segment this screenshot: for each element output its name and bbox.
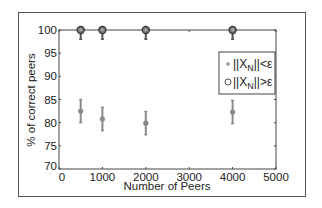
data-point-below-epsilon: [143, 112, 148, 135]
x-tick-label: 1000: [90, 171, 116, 183]
data-series: [77, 26, 236, 134]
legend-label-pre: ||X: [233, 75, 247, 89]
x-tick-label: 4000: [220, 171, 246, 183]
data-point-above-epsilon: [77, 26, 84, 39]
y-tick-label: 70: [44, 160, 57, 172]
y-tick-label: 75: [44, 140, 57, 152]
data-point-below-epsilon: [100, 107, 105, 130]
y-tick-label: 80: [44, 117, 57, 129]
legend-label-post: ||>ε: [254, 75, 273, 89]
legend-label-pre: ||X: [233, 57, 247, 71]
data-point-above-epsilon: [142, 26, 149, 39]
x-tick-label: 5000: [263, 171, 289, 183]
svg-text:||XN||>ε: ||XN||>ε: [233, 75, 273, 91]
y-axis-ticks: 707580859095100: [38, 24, 276, 172]
x-axis-label: Number of Peers: [124, 180, 211, 192]
plot-area: [59, 30, 276, 169]
data-point-below-epsilon: [78, 100, 83, 123]
dot-marker-icon: [226, 62, 230, 66]
legend: ||XN||<ε ||XN||>ε: [219, 52, 275, 94]
y-tick-label: 85: [44, 94, 57, 106]
axes-box: [59, 30, 276, 169]
svg-text:||XN||<ε: ||XN||<ε: [233, 57, 273, 73]
data-point-above-epsilon: [229, 26, 236, 39]
chart: 010002000300040005000 707580859095100 Nu…: [0, 0, 322, 208]
x-tick-label: 0: [59, 171, 65, 183]
data-point-below-epsilon: [230, 100, 235, 123]
y-tick-label: 100: [38, 24, 57, 36]
legend-label-post: ||<ε: [254, 57, 273, 71]
y-tick-label: 90: [44, 70, 57, 82]
data-point-above-epsilon: [99, 26, 106, 39]
y-tick-label: 95: [44, 47, 57, 59]
y-axis-label: % of correct peers: [25, 53, 37, 147]
